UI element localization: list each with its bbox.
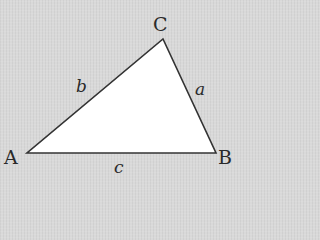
side-label-c: c — [114, 157, 124, 177]
vertex-label-b: B — [218, 146, 232, 168]
triangle-diagram: A B C b a c — [0, 0, 247, 188]
side-label-a: a — [195, 79, 205, 99]
triangle-abc — [27, 39, 216, 153]
vertex-label-c: C — [153, 13, 168, 35]
side-label-b: b — [76, 76, 87, 96]
vertex-label-a: A — [3, 146, 18, 168]
